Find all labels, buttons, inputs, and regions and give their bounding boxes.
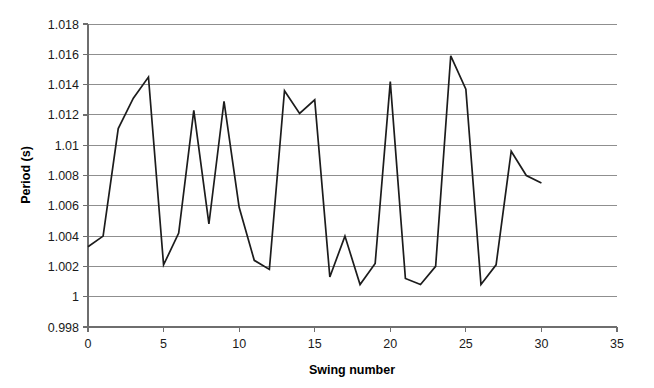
y-tick-label: 1.004 — [48, 230, 79, 244]
y-tick-label: 1.008 — [48, 169, 79, 183]
y-axis-title: Period (s) — [19, 146, 33, 204]
y-tick-label: 1.01 — [55, 139, 79, 153]
y-tick-label: 1.002 — [48, 260, 79, 274]
y-tick-label: 1.006 — [48, 199, 79, 213]
x-tick-label: 10 — [232, 337, 246, 351]
line-chart: 0.99811.0021.0041.0061.0081.011.0121.014… — [0, 0, 654, 388]
x-tick-label: 20 — [383, 337, 397, 351]
y-tick-label: 1.012 — [48, 108, 79, 122]
x-axis-title: Swing number — [309, 363, 395, 377]
y-tick-label: 1 — [72, 290, 79, 304]
y-axis-ticks — [83, 24, 88, 327]
x-tick-label: 35 — [610, 337, 624, 351]
x-tick-label: 25 — [459, 337, 473, 351]
x-tick-label: 15 — [308, 337, 322, 351]
x-tick-label: 30 — [534, 337, 548, 351]
y-tick-label: 1.014 — [48, 78, 79, 92]
y-tick-labels: 0.99811.0021.0041.0061.0081.011.0121.014… — [48, 18, 79, 335]
x-axis-ticks — [88, 327, 617, 332]
y-tick-label: 1.016 — [48, 48, 79, 62]
x-tick-label: 5 — [160, 337, 167, 351]
x-tick-label: 0 — [85, 337, 92, 351]
x-tick-labels: 05101520253035 — [85, 337, 624, 351]
y-tick-label: 0.998 — [48, 321, 79, 335]
y-tick-label: 1.018 — [48, 18, 79, 32]
chart-container: 0.99811.0021.0041.0061.0081.011.0121.014… — [0, 0, 654, 388]
